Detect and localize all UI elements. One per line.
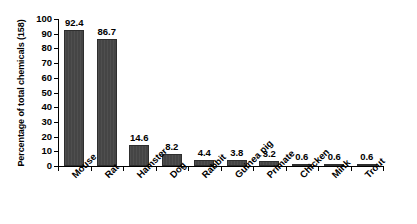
plot-area: 92.486.714.68.24.43.83.20.60.60.6 bbox=[58, 19, 383, 166]
x-tick-mark bbox=[351, 167, 352, 171]
x-tick-mark bbox=[58, 167, 59, 171]
y-tick-label: 80 bbox=[0, 43, 52, 53]
bar-value-label: 86.7 bbox=[85, 27, 129, 37]
x-tick-mark bbox=[286, 167, 287, 171]
x-tick-mark bbox=[123, 167, 124, 171]
y-tick-label-text: 70 bbox=[2, 58, 52, 68]
x-tick-mark bbox=[318, 167, 319, 171]
y-tick-label-text: 20 bbox=[2, 132, 52, 142]
y-tick-label-text: 90 bbox=[2, 29, 52, 39]
bar-value-label: 14.6 bbox=[117, 133, 161, 143]
y-tick-label: 50 bbox=[0, 88, 52, 98]
y-tick-label: 100 bbox=[0, 14, 52, 24]
y-tick-label-text: 40 bbox=[2, 102, 52, 112]
x-tick-mark bbox=[156, 167, 157, 171]
bar bbox=[97, 39, 117, 166]
y-tick-label-text: 60 bbox=[2, 73, 52, 83]
y-tick-label: 90 bbox=[0, 29, 52, 39]
y-tick-label-text: 100 bbox=[2, 14, 52, 24]
y-tick-label: 30 bbox=[0, 117, 52, 127]
y-tick-label-text: 80 bbox=[2, 43, 52, 53]
y-tick-label: 40 bbox=[0, 102, 52, 112]
bar bbox=[64, 30, 84, 166]
x-tick-mark bbox=[383, 167, 384, 171]
bar-chart: Percentage of total chemicals (158) 0102… bbox=[0, 0, 417, 224]
x-tick-mark bbox=[91, 167, 92, 171]
y-tick-label: 0 bbox=[0, 161, 52, 171]
x-tick-mark bbox=[253, 167, 254, 171]
y-tick-label: 20 bbox=[0, 132, 52, 142]
y-tick-label-text: 10 bbox=[2, 146, 52, 156]
x-tick-mark bbox=[221, 167, 222, 171]
x-tick-mark bbox=[188, 167, 189, 171]
y-tick-label: 10 bbox=[0, 146, 52, 156]
y-tick-label-text: 50 bbox=[2, 88, 52, 98]
y-tick-label: 60 bbox=[0, 73, 52, 83]
y-tick-label-text: 0 bbox=[2, 161, 52, 171]
y-tick-label-text: 30 bbox=[2, 117, 52, 127]
y-tick-label: 70 bbox=[0, 58, 52, 68]
